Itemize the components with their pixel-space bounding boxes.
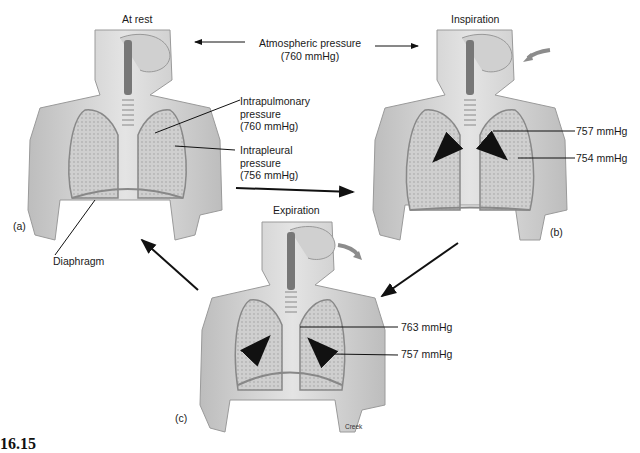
intrapulmonary-label-value: (760 mmHg)	[240, 120, 310, 133]
torso-figure-at-rest	[28, 30, 222, 240]
inspiration-intrapleural-value: 754 mmHg	[576, 152, 627, 165]
panel-letter-a: (a)	[13, 220, 26, 233]
intrapulmonary-pressure-label: Intrapulmonary pressure (760 mmHg)	[240, 95, 310, 133]
atmospheric-pressure-label: Atmospheric pressure (760 mmHg)	[250, 37, 370, 62]
intrapleural-pressure-label: Intrapleural pressure (756 mmHg)	[240, 144, 298, 182]
panel-letter-c: (c)	[175, 412, 187, 425]
atmospheric-pressure-value: (760 mmHg)	[250, 50, 370, 63]
expiration-intrapulmonary-value: 763 mmHg	[401, 321, 452, 334]
diaphragm-label: Diaphragm	[53, 255, 104, 268]
expiration-intrapleural-value: 757 mmHg	[401, 348, 452, 361]
inspiration-intrapulmonary-value: 757 mmHg	[576, 125, 627, 138]
intrapleural-label-line1: Intrapleural	[240, 144, 298, 157]
figure-number: 16.15	[0, 435, 36, 453]
artist-credit: Creek	[345, 423, 362, 430]
panel-title-at-rest: At rest	[122, 13, 152, 26]
atmospheric-pressure-line1: Atmospheric pressure	[250, 37, 370, 50]
panel-letter-b: (b)	[550, 226, 563, 239]
intrapleural-label-value: (756 mmHg)	[240, 169, 298, 182]
intrapulmonary-label-line2: pressure	[240, 108, 310, 121]
panel-title-inspiration: Inspiration	[451, 13, 499, 26]
intrapulmonary-label-line1: Intrapulmonary	[240, 95, 310, 108]
intrapleural-label-line2: pressure	[240, 157, 298, 170]
panel-title-expiration: Expiration	[273, 204, 320, 217]
torso-figure-inspiration	[373, 30, 567, 240]
